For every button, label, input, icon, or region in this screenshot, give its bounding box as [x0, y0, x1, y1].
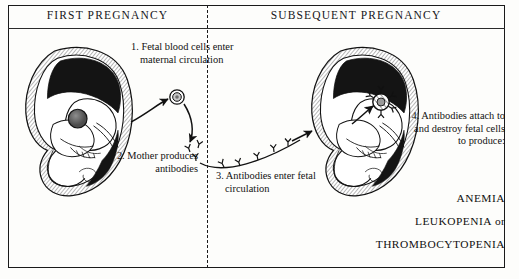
panel-title-subsequent-pregnancy: SUBSEQUENT PREGNANCY [207, 9, 505, 21]
outcome-leukopenia: LEUKOPENIA or [415, 215, 505, 227]
callout-step-2: 2. Mother produces antibodies [116, 150, 198, 175]
callout-step-4: 4. Antibodies attach to and destroy feta… [408, 110, 505, 148]
dashed-divider [207, 5, 208, 268]
outcome-label: THROMBOCYTOPENIA [376, 238, 505, 250]
callout-step-1: 1. Fetal blood cells enter maternal circ… [131, 41, 235, 66]
outcome-anemia: ANEMIA [456, 192, 505, 204]
rh-incompatibility-figure: FIRST PREGNANCY SUBSEQUENT PREGNANCY [0, 0, 519, 279]
callout-step-3: 3. Antibodies enter fetal circulation [216, 170, 317, 195]
panel-title-first-pregnancy: FIRST PREGNANCY [8, 9, 207, 21]
outcome-thrombocytopenia: THROMBOCYTOPENIA [376, 238, 505, 250]
header-rule [8, 28, 505, 29]
outcome-label: LEUKOPENIA [415, 215, 492, 227]
outcome-suffix: or [492, 215, 505, 227]
outcome-label: ANEMIA [456, 192, 505, 204]
